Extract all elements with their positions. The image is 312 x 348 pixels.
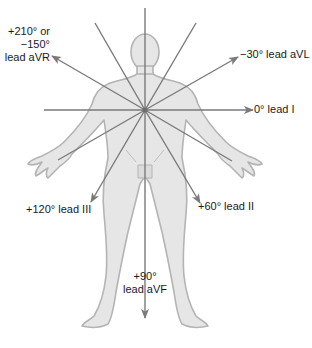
label-lead-II: +60° lead II [198, 200, 254, 213]
axis-center [143, 108, 148, 113]
label-lead-III: +120° lead III [26, 203, 91, 216]
label-lead-I: 0° lead I [254, 103, 294, 116]
label-aVL: −30° lead aVL [240, 48, 310, 61]
label-aVF-angle: +90° [115, 270, 175, 283]
hexaxial-diagram: +210° or −150° lead aVR −30° lead aVL 0°… [0, 0, 312, 348]
label-aVF: +90° lead aVF [115, 270, 175, 296]
label-aVR: +210° or −150° lead aVR [4, 25, 50, 64]
label-aVR-angle: +210° or [4, 25, 50, 38]
label-aVR-angle-alt: −150° [4, 38, 50, 51]
label-aVR-lead: lead aVR [4, 51, 50, 64]
label-aVF-lead: lead aVF [115, 283, 175, 296]
